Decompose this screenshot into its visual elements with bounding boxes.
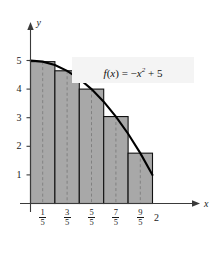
x-tick-label-two: 2	[152, 213, 162, 223]
fraction-numerator: 9	[133, 208, 147, 217]
fraction-numerator: 3	[60, 208, 74, 217]
x-axis-label: x	[204, 199, 208, 209]
x-tick-label-fraction: 15	[36, 208, 50, 227]
x-axis-arrowhead	[192, 200, 200, 206]
fraction-denominator: 5	[133, 218, 147, 227]
x-tick-label-fraction: 95	[133, 208, 147, 227]
fraction-numerator: 5	[85, 208, 99, 217]
y-tick-label: 4	[14, 84, 25, 94]
fraction-denominator: 5	[36, 218, 50, 227]
fraction-denominator: 5	[60, 218, 74, 227]
riemann-sum-figure: f(x) = −x2 + 5 12345 15355575952 y x	[0, 0, 219, 257]
x-tick-label-fraction: 75	[109, 208, 123, 227]
fraction-numerator: 1	[36, 208, 50, 217]
equation-label: f(x) = −x2 + 5	[72, 60, 194, 83]
y-tick-label: 2	[14, 141, 25, 151]
x-tick-label-fraction: 35	[60, 208, 74, 227]
x-tick-label-fraction: 55	[85, 208, 99, 227]
fraction-numerator: 7	[109, 208, 123, 217]
bar-1	[31, 62, 55, 204]
y-tick-label: 5	[14, 56, 25, 66]
fraction-denominator: 5	[109, 218, 123, 227]
y-tick-label: 3	[14, 113, 25, 123]
fraction-denominator: 5	[85, 218, 99, 227]
y-axis-label: y	[37, 18, 41, 28]
y-axis-arrowhead	[27, 22, 33, 30]
y-axis-ticks-group	[27, 61, 31, 175]
y-tick-label: 1	[14, 170, 25, 180]
